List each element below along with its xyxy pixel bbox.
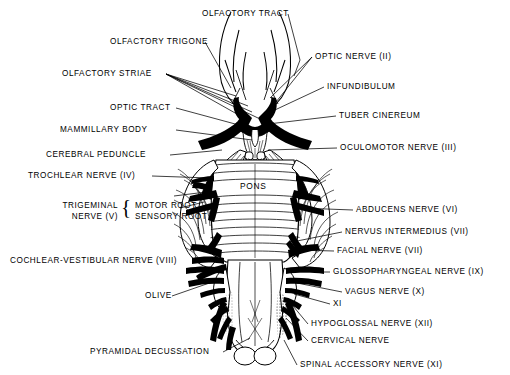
label-olfactory-striae: OLFACTORY STRIAE [62, 69, 152, 79]
medulla-oblongata [227, 260, 284, 365]
label-infundibulum: INFUNDIBULUM [327, 82, 395, 92]
label-hypoglossal-nerve: HYPOGLOSSAL NERVE (XII) [311, 319, 433, 329]
label-optic-nerve: OPTIC NERVE (II) [315, 52, 391, 62]
label-sensory-root: SENSORY ROOT [135, 211, 207, 222]
pons-label: PONS [240, 181, 267, 191]
label-olfactory-tract: OLFACTORY TRACT [202, 9, 289, 19]
olfactory-tract-lines [232, 70, 278, 104]
label-cervical-nerve: CERVICAL NERVE [311, 336, 390, 346]
label-facial-nerve: FACIAL NERVE (VII) [337, 246, 423, 256]
hypothalamic-region [243, 130, 267, 160]
label-vagus-nerve: VAGUS NERVE (X) [345, 287, 425, 297]
trigeminal-brace-icon: { [121, 197, 131, 218]
label-tuber-cinereum: TUBER CINEREUM [339, 111, 420, 121]
label-abducens-nerve: ABDUCENS NERVE (VI) [356, 205, 458, 215]
label-oculomotor-nerve: OCULOMOTOR NERVE (III) [340, 143, 456, 153]
label-pyramidal-decussation: PYRAMIDAL DECUSSATION [90, 347, 209, 357]
label-olive: OLIVE [145, 291, 172, 301]
label-trochlear-nerve: TROCHLEAR NERVE (IV) [28, 171, 135, 181]
label-spinal-accessory-nerve: SPINAL ACCESSORY NERVE (XI) [300, 360, 442, 370]
label-olfactory-trigone: OLFACTORY TRIGONE [110, 37, 208, 47]
label-cerebral-peduncle: CEREBRAL PEDUNCLE [46, 150, 146, 160]
trigeminal-group-line2: NERVE (V) [18, 211, 118, 222]
label-motor-root: MOTOR ROOT [135, 200, 197, 211]
label-optic-tract: OPTIC TRACT [110, 103, 170, 113]
figure-page: PONS OLFACTORY TRIGONE OLFACTORY STRIAE … [0, 0, 510, 375]
label-xi-short: XI [333, 299, 342, 309]
label-glossopharyngeal-nerve: GLOSSOPHARYNGEAL NERVE (IX) [333, 267, 484, 277]
label-cochlear-vestibular-nerve: COCHLEAR-VESTIBULAR NERVE (VIII) [10, 256, 177, 266]
frontal-lobes-outline [219, 12, 290, 104]
trigeminal-group-line1: TRIGEMINAL [18, 200, 118, 211]
label-nervus-intermedius: NERVUS INTERMEDIUS (VII) [345, 227, 469, 237]
label-mammillary-body: MAMMILLARY BODY [60, 125, 148, 135]
